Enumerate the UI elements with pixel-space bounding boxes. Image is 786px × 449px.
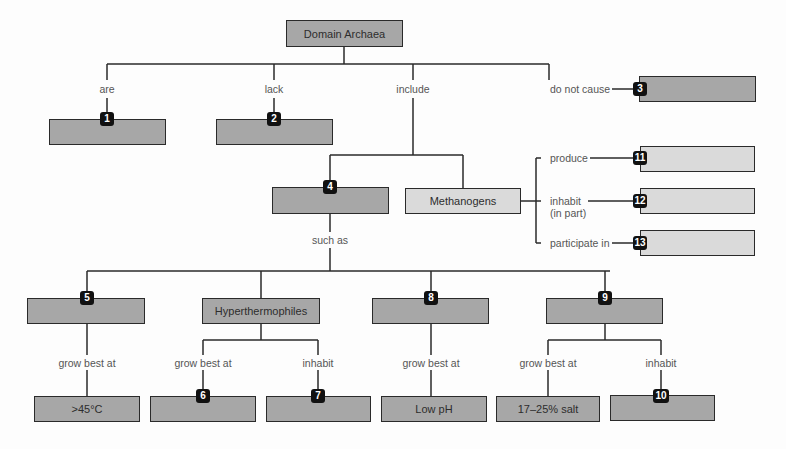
badge-9: 9 xyxy=(598,291,612,305)
badge-7: 7 xyxy=(311,389,325,403)
badge-2: 2 xyxy=(267,112,281,126)
node-methanogens: Methanogens xyxy=(405,188,521,214)
low-ph-label: Low pH xyxy=(415,403,452,415)
link-label-grow-best-at-8: grow best at xyxy=(400,357,461,369)
blank-node-12[interactable] xyxy=(640,188,755,214)
connector-lines xyxy=(0,0,786,449)
link-label-are: are xyxy=(97,83,116,95)
link-label-grow-best-at-5: grow best at xyxy=(56,357,117,369)
blank-node-3[interactable] xyxy=(639,76,756,102)
salt-label: 17–25% salt xyxy=(518,403,579,415)
badge-12: 12 xyxy=(633,194,647,208)
link-label-include: include xyxy=(394,83,431,95)
node-salt: 17–25% salt xyxy=(496,396,600,422)
root-node-label: Domain Archaea xyxy=(304,28,385,40)
badge-6: 6 xyxy=(196,389,210,403)
concept-map-canvas: Domain Archaea are lack include do not c… xyxy=(0,0,786,449)
badge-1: 1 xyxy=(100,112,114,126)
link-label-such-as: such as xyxy=(310,234,350,246)
badge-13: 13 xyxy=(633,236,647,250)
link-label-grow-best-at-hyper: grow best at xyxy=(172,357,233,369)
methanogens-label: Methanogens xyxy=(430,195,497,207)
badge-10: 10 xyxy=(653,389,669,403)
link-label-do-not-cause: do not cause xyxy=(548,83,612,95)
badge-5: 5 xyxy=(80,291,94,305)
link-label-inhabit-9: inhabit xyxy=(644,357,679,369)
blank-node-11[interactable] xyxy=(640,146,755,172)
link-label-grow-best-at-9: grow best at xyxy=(517,357,578,369)
temp-45c-label: >45°C xyxy=(71,403,102,415)
badge-11: 11 xyxy=(633,151,647,165)
root-node-domain-archaea: Domain Archaea xyxy=(286,20,403,47)
blank-node-13[interactable] xyxy=(640,230,755,256)
link-label-participate-in: participate in xyxy=(548,237,612,249)
node-temp-45c: >45°C xyxy=(34,396,140,422)
link-label-inhabit-hyper: inhabit xyxy=(301,357,336,369)
link-label-produce: produce xyxy=(548,152,590,164)
node-hyperthermophiles: Hyperthermophiles xyxy=(202,298,320,324)
link-label-lack: lack xyxy=(263,83,286,95)
hyperthermophiles-label: Hyperthermophiles xyxy=(215,305,307,317)
badge-4: 4 xyxy=(323,180,337,194)
link-label-inhabit-in-part: inhabit (in part) xyxy=(548,195,588,219)
badge-3: 3 xyxy=(633,82,647,96)
badge-8: 8 xyxy=(424,291,438,305)
node-low-ph: Low pH xyxy=(381,396,487,422)
